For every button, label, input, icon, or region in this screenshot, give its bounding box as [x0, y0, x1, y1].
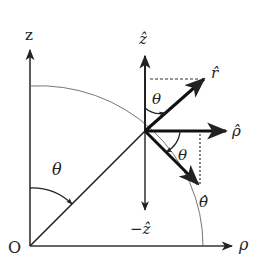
neg-z-hat-label: −ẑ	[130, 220, 151, 238]
r-hat-label: r̂	[211, 64, 219, 82]
radius-line	[30, 131, 145, 246]
lower-theta-label: θ	[178, 146, 187, 164]
origin-label: O	[8, 238, 21, 257]
origin-theta-label: θ	[52, 160, 62, 179]
theta-hat-vector	[145, 131, 198, 184]
z-hat-label: ẑ	[138, 30, 147, 48]
z-axis-label: z	[25, 26, 33, 44]
rho-axis-label: ρ	[238, 235, 249, 254]
theta-hat-label: θ̂	[199, 193, 208, 211]
origin-theta-arc	[30, 188, 72, 204]
diagram-canvas: z ρ O θ ẑ −ẑ r̂ θ ρ̂ θ̂ θ	[0, 0, 265, 264]
rho-hat-label: ρ̂	[231, 122, 241, 140]
upper-theta-label: θ	[152, 90, 161, 108]
upper-theta-arc	[145, 108, 165, 114]
